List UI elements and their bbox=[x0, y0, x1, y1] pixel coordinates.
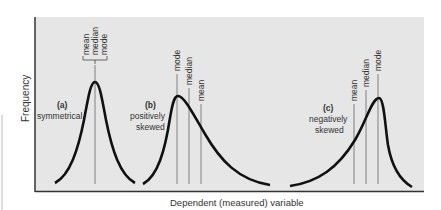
panel-description-line2: skewed bbox=[136, 122, 165, 132]
panel-description: positively bbox=[130, 111, 166, 121]
marker-mode: mode bbox=[172, 49, 182, 71]
marker-mean: mean bbox=[196, 79, 206, 101]
panel-description: symmetrical bbox=[37, 111, 82, 121]
panel-description-line2: skewed bbox=[315, 125, 344, 135]
marker-mean: mean bbox=[349, 79, 359, 101]
marker-mode: mode bbox=[99, 33, 109, 55]
marker-median: median bbox=[361, 59, 371, 87]
panel-description: negatively bbox=[309, 114, 348, 124]
marker-mode: mode bbox=[373, 49, 383, 71]
y-axis-label: Frequency bbox=[20, 75, 31, 122]
marker-median: median bbox=[184, 57, 194, 85]
panel-tag: (b) bbox=[145, 100, 156, 110]
x-axis-label: Dependent (measured) variable bbox=[170, 197, 304, 208]
panel-tag: (c) bbox=[323, 103, 334, 113]
panel-tag: (a) bbox=[57, 100, 68, 110]
distribution-shapes-diagram: Frequency Dependent (measured) variable … bbox=[0, 0, 441, 210]
